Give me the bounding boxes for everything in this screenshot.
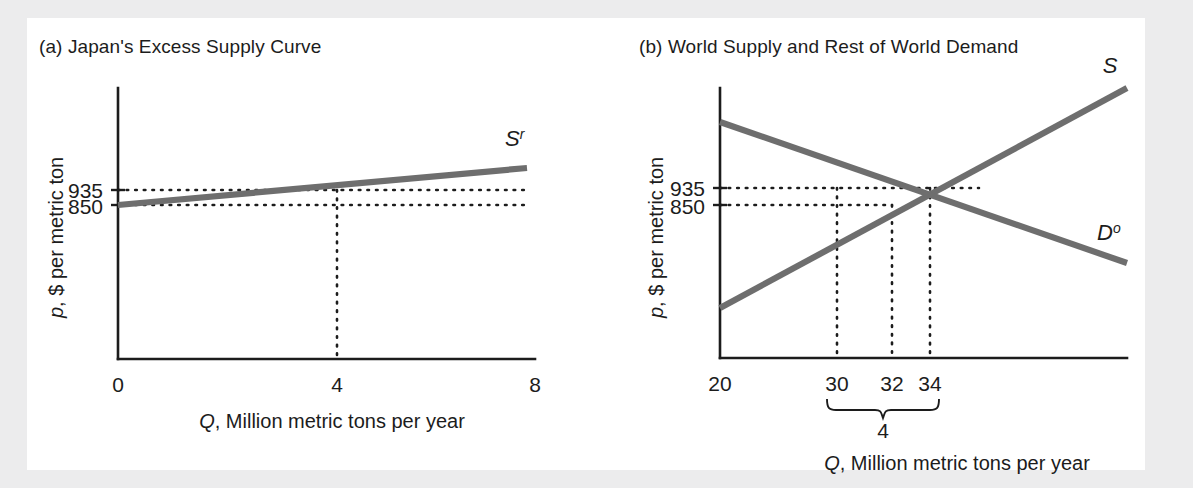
panel-b-brace-label: 4 <box>877 419 889 442</box>
panel-a-xtick-label-4: 4 <box>331 373 343 396</box>
panel-b-supply-label: S <box>1103 53 1118 78</box>
panel-a-x-axis-label: Q, Million metric tons per year <box>199 410 465 432</box>
panel-a-curve-label-base: S <box>505 126 520 151</box>
panel-a-curve-label-superscript: r <box>520 126 526 142</box>
panel-a-xtick-label-0: 0 <box>112 373 124 396</box>
panel-b-xtick-label-20: 20 <box>708 372 731 395</box>
panel-world-supply-row-demand: (b) World Supply and Rest of World Deman… <box>627 18 1145 470</box>
panel-b-xtick-label-30: 30 <box>825 372 848 395</box>
panel-a-plot: Sr 935 850 0 4 8 Q, Million metric tons … <box>27 18 627 470</box>
panel-a-curve-excess-supply <box>118 168 527 205</box>
panel-b-curve-world-supply <box>720 88 1127 308</box>
panel-a-x-axis-label-symbol: Q <box>199 410 215 432</box>
panel-b-xtick-label-32: 32 <box>880 372 903 395</box>
panel-b-demand-label-superscript: o <box>1113 220 1121 236</box>
panel-a-ytick-label-850: 850 <box>68 195 103 218</box>
panel-b-x-axis-label-symbol: Q <box>824 452 840 474</box>
panel-b-x-axis-label-rest: , Million metric tons per year <box>840 452 1090 474</box>
panel-a-curve-label: Sr <box>505 126 526 151</box>
panel-b-brace-quantity-4 <box>827 399 939 418</box>
panel-a-x-axis-label-rest: , Million metric tons per year <box>215 410 465 432</box>
panel-japan-excess-supply: (a) Japan's Excess Supply Curve p, $ per… <box>27 18 627 470</box>
panel-b-xtick-label-34: 34 <box>918 372 942 395</box>
panel-a-xtick-label-8: 8 <box>529 373 541 396</box>
panel-b-ytick-label-850: 850 <box>670 195 705 218</box>
panel-b-demand-label-base: D <box>1097 220 1113 245</box>
panel-b-plot: S Do 935 850 20 30 32 34 4 Q, Million me… <box>627 18 1145 470</box>
figure-background: (a) Japan's Excess Supply Curve p, $ per… <box>0 0 1193 488</box>
figure-page: (a) Japan's Excess Supply Curve p, $ per… <box>27 18 1145 470</box>
panel-b-curve-row-demand <box>720 122 1127 263</box>
panel-b-demand-label: Do <box>1097 220 1121 245</box>
panel-b-x-axis-label: Q, Million metric tons per year <box>824 452 1090 474</box>
